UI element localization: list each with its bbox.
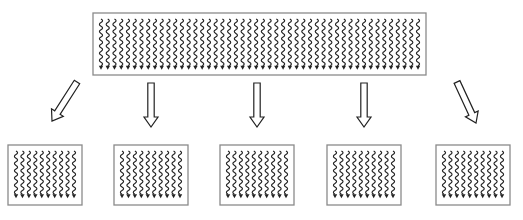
target-box-1-frame [8,145,82,205]
target-blocks [8,145,510,205]
target-box-3 [220,145,294,205]
arrow-down-left-icon [52,80,80,121]
target-box-3-frame [220,145,294,205]
target-box-2-frame [114,145,188,205]
target-box-1 [8,145,82,205]
target-box-5-frame [436,145,510,205]
target-box-5 [436,145,510,205]
source-box [93,13,426,75]
split-arrows [52,80,479,127]
source-block [93,13,426,75]
arrow-down-icon [250,83,264,127]
arrow-down-icon [357,83,371,127]
target-box-4 [327,145,401,205]
arrow-down-right-icon [454,81,478,123]
target-box-2 [114,145,188,205]
arrow-down-icon [144,83,158,127]
split-diagram [0,0,523,220]
source-box-frame [93,13,426,75]
target-box-4-frame [327,145,401,205]
